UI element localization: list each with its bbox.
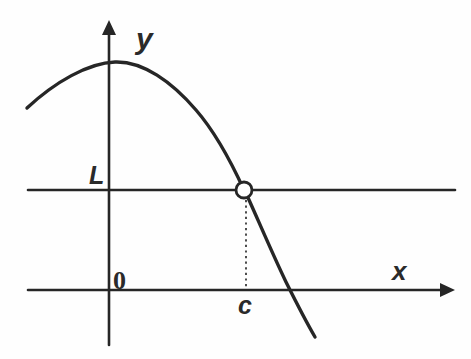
function-curve-right-branch [245,191,315,337]
open-circle-point-icon [236,182,252,198]
x-axis-label: x [392,258,406,284]
y-axis-label: y [136,24,153,54]
limit-value-label: L [89,163,104,188]
function-curve-left-branch [27,62,244,190]
y-axis-arrowhead-icon [102,20,116,35]
origin-label: 0 [113,268,126,294]
graph-canvas [0,0,471,359]
x-axis-arrowhead-icon [440,283,455,297]
limit-graph-figure: y x L 0 c [0,0,471,359]
approach-point-label: c [238,293,252,318]
